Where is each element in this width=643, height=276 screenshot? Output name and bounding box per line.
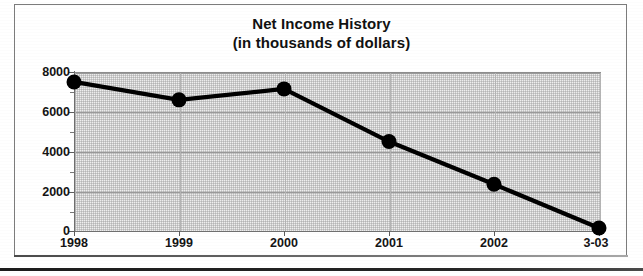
gridline-4000 bbox=[75, 152, 601, 153]
y-minortick-5000 bbox=[70, 132, 74, 133]
vgridline-1998 bbox=[75, 73, 76, 232]
x-tick-label-1998: 1998 bbox=[29, 236, 119, 250]
figure-frame-shadow bbox=[14, 255, 628, 257]
y-tick-label-4000: 4000 bbox=[8, 145, 70, 159]
vgridline-2001 bbox=[390, 73, 391, 232]
vgridline-1999 bbox=[180, 73, 181, 232]
y-axis-line bbox=[74, 71, 75, 232]
chart-title-units: (in thousands of dollars) bbox=[0, 33, 643, 52]
x-tick-label-3-03: 3-03 bbox=[551, 236, 641, 250]
y-minortick-1000 bbox=[70, 212, 74, 213]
scanned-chart-page: Net Income History (in thousands of doll… bbox=[0, 0, 643, 276]
x-tick-label-2002: 2002 bbox=[449, 236, 539, 250]
vgridline-2002 bbox=[495, 73, 496, 232]
gridline-6000 bbox=[75, 112, 601, 113]
plot-area bbox=[74, 72, 601, 232]
x-tick-label-2001: 2001 bbox=[344, 236, 434, 250]
page-bottom-rule bbox=[0, 268, 643, 271]
y-tick-label-6000: 6000 bbox=[8, 105, 70, 119]
y-minortick-7000 bbox=[70, 92, 74, 93]
gridline-2000 bbox=[75, 192, 601, 193]
y-minortick-3000 bbox=[70, 172, 74, 173]
x-axis-line bbox=[74, 231, 601, 232]
chart-title-main: Net Income History bbox=[0, 14, 643, 33]
chart-title: Net Income History (in thousands of doll… bbox=[0, 14, 643, 52]
y-tick-label-8000: 8000 bbox=[8, 65, 70, 79]
vgridline-3-03 bbox=[600, 73, 601, 232]
gridline-8000 bbox=[75, 73, 601, 74]
x-tick-label-1999: 1999 bbox=[134, 236, 224, 250]
y-axis-tick-labels: 8000 6000 4000 2000 0 bbox=[4, 0, 70, 276]
x-tick-label-2000: 2000 bbox=[239, 236, 329, 250]
vgridline-2000 bbox=[285, 73, 286, 232]
y-tick-label-2000: 2000 bbox=[8, 185, 70, 199]
